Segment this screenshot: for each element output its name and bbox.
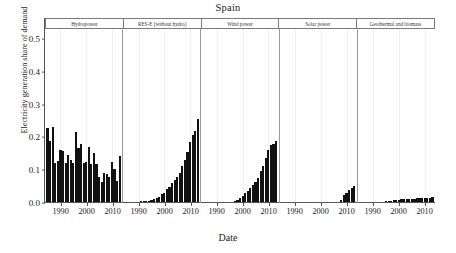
x-tick-mark (87, 203, 88, 206)
y-tick-label: 0.4 (29, 67, 40, 77)
y-tick-label: 0.1 (29, 165, 40, 175)
x-axis-panel: 199020002010 (357, 203, 435, 225)
x-tick-label: 2000 (312, 207, 328, 216)
x-tick-label: 2010 (416, 207, 432, 216)
bar (119, 156, 121, 203)
facet-strip-label: Wind power (201, 18, 279, 29)
x-tick-label: 2000 (390, 207, 406, 216)
x-tick-mark (295, 203, 296, 206)
x-axis-panel: 199020002010 (279, 203, 357, 225)
y-tick-label: 0.5 (29, 34, 40, 44)
bar (275, 141, 277, 203)
x-tick-mark (373, 203, 374, 206)
bar (197, 119, 199, 203)
x-tick-mark (61, 203, 62, 206)
x-tick-mark (321, 203, 322, 206)
facet-strip-label: Solar power (278, 18, 356, 29)
x-tick-mark (347, 203, 348, 206)
x-tick-label: 2000 (78, 207, 94, 216)
x-tick-label: 1990 (130, 207, 146, 216)
bar-group (201, 29, 278, 203)
x-tick-mark (217, 203, 218, 206)
x-tick-mark (425, 203, 426, 206)
facet-panel (200, 29, 278, 203)
facet-panel (279, 29, 357, 203)
x-tick-label: 2010 (338, 207, 354, 216)
x-tick-label: 2010 (260, 207, 276, 216)
plot-area: HydropowerRES-E (without hydro)Wind powe… (45, 18, 435, 203)
y-tick-label: 0.3 (29, 100, 40, 110)
x-tick-label: 2000 (234, 207, 250, 216)
x-tick-mark (191, 203, 192, 206)
x-tick-label: 1990 (286, 207, 302, 216)
x-tick-label: 1990 (208, 207, 224, 216)
bar-group (358, 29, 435, 203)
facet-strip-label: Hydropower (45, 18, 123, 29)
facet-panel (122, 29, 200, 203)
x-tick-label: 2010 (104, 207, 120, 216)
x-axis-panel: 199020002010 (45, 203, 123, 225)
facet-strip-label: Geothermal and biomass (356, 18, 435, 29)
x-tick-label: 2010 (182, 207, 198, 216)
bar-group (123, 29, 200, 203)
facet-panel (357, 29, 435, 203)
x-tick-mark (269, 203, 270, 206)
bar (353, 186, 355, 203)
bar-group (280, 29, 357, 203)
chart-figure: Spain Electricity generation share of de… (0, 0, 456, 253)
x-axis: 1990200020101990200020101990200020101990… (45, 203, 435, 225)
y-tick-label: 0.0 (29, 198, 40, 208)
x-axis-label: Date (0, 232, 456, 243)
x-axis-panel: 199020002010 (201, 203, 279, 225)
facet-strip-row: HydropowerRES-E (without hydro)Wind powe… (45, 18, 435, 29)
x-tick-mark (113, 203, 114, 206)
x-tick-mark (139, 203, 140, 206)
x-tick-label: 1990 (52, 207, 68, 216)
x-tick-mark (165, 203, 166, 206)
x-tick-label: 2000 (156, 207, 172, 216)
y-tick-label: 0.2 (29, 132, 40, 142)
x-tick-label: 1990 (364, 207, 380, 216)
bar-group (45, 29, 122, 203)
facet-panel (45, 29, 122, 203)
y-axis: 0.00.10.20.30.40.5 (22, 18, 45, 203)
facet-panels (45, 29, 435, 203)
x-axis-panel: 199020002010 (123, 203, 201, 225)
facet-strip-label: RES-E (without hydro) (123, 18, 201, 29)
x-tick-mark (399, 203, 400, 206)
chart-title: Spain (0, 2, 456, 13)
x-tick-mark (243, 203, 244, 206)
